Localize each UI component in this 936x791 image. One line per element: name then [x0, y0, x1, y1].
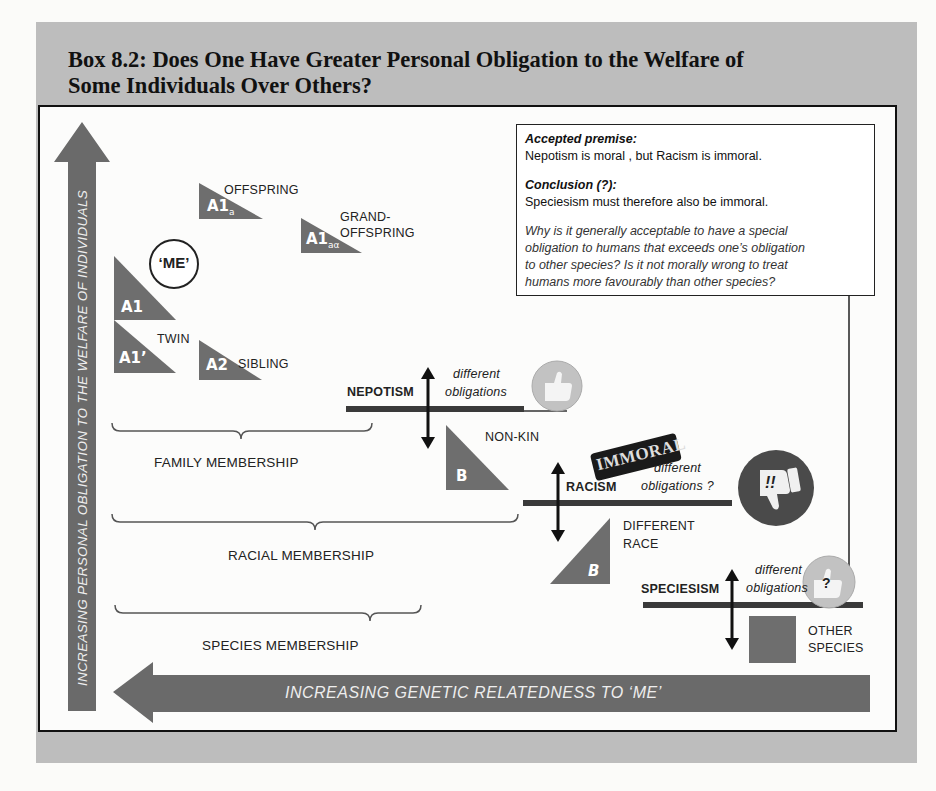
- square-other-species: [749, 616, 796, 663]
- argument-textbox: Accepted premise: Nepotism is moral , bu…: [516, 124, 875, 296]
- twin-label: TWIN: [157, 332, 190, 346]
- me-label: ‘ME’: [152, 254, 196, 271]
- grand-label-1: GRAND-: [340, 210, 391, 224]
- sibling-label: SIBLING: [238, 357, 289, 371]
- label-a1: A1: [121, 298, 143, 316]
- different-race-label-2: RACE: [623, 537, 659, 551]
- non-kin-label: NON-KIN: [485, 430, 539, 444]
- other-species-label-2: SPECIES: [808, 641, 864, 655]
- racism-text-1: different: [654, 461, 701, 475]
- conclusion-text: Speciesism must therefore also be immora…: [525, 194, 866, 211]
- racism-icon-text: !!: [765, 474, 776, 492]
- premise-text: Nepotism is moral , but Racism is immora…: [525, 148, 866, 165]
- label-a1a: A1a: [207, 197, 235, 217]
- label-a1aa: A1aα: [306, 230, 340, 250]
- offspring-label: OFFSPRING: [224, 183, 299, 197]
- nepotism-text-2: obligations: [445, 385, 507, 399]
- brace-family: [112, 423, 372, 439]
- nepotism-label: NEPOTISM: [347, 385, 414, 399]
- label-a2: A2: [206, 356, 228, 374]
- question-line-1: Why is it generally acceptable to have a…: [525, 223, 866, 240]
- brace-species: [115, 605, 421, 621]
- racial-membership-label: RACIAL MEMBERSHIP: [228, 548, 374, 563]
- horizontal-axis-label: INCREASING GENETIC RELATEDNESS TO ‘ME’: [285, 684, 662, 702]
- thumbs-down-icon: [738, 450, 814, 526]
- grand-label-2: OFFSPRING: [340, 226, 415, 240]
- label-b-nonkin: B: [456, 467, 467, 485]
- different-race-label-1: DIFFERENT: [623, 519, 695, 533]
- conclusion-heading: Conclusion (?):: [525, 177, 866, 194]
- speciesism-text-2: obligations: [746, 581, 808, 595]
- label-a1prime: A1’: [119, 349, 147, 367]
- question-line-3: to other species? Is it not morally wron…: [525, 257, 866, 274]
- question-line-4: humans more favourably than other specie…: [525, 274, 866, 291]
- speciesism-icon-text: ?: [822, 575, 831, 591]
- speciesism-label: SPECIESISM: [641, 582, 719, 596]
- thumbs-up-icon: [532, 361, 582, 411]
- label-b-race: B: [588, 562, 599, 580]
- species-membership-label: SPECIES MEMBERSHIP: [202, 638, 359, 653]
- question-line-2: obligation to humans that exceeds one’s …: [525, 240, 866, 257]
- premise-heading: Accepted premise:: [525, 131, 866, 148]
- speciesism-text-1: different: [755, 563, 802, 577]
- racism-label: RACISM: [566, 480, 617, 494]
- nepotism-text-1: different: [453, 367, 500, 381]
- brace-racial: [112, 514, 518, 530]
- racism-text-2: obligations ?: [641, 479, 714, 493]
- other-species-label-1: OTHER: [808, 624, 853, 638]
- vertical-axis-label: INCREASING PERSONAL OBLIGATION TO THE WE…: [75, 190, 90, 686]
- family-membership-label: FAMILY MEMBERSHIP: [154, 455, 299, 470]
